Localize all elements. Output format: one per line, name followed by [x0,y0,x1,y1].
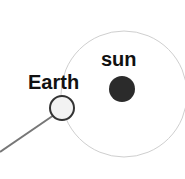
sun [109,76,135,102]
pointer-line [0,115,54,152]
sun-earth-diagram: sun Earth [0,0,185,179]
earth-label: Earth [28,71,79,93]
earth [50,96,74,120]
sun-label: sun [101,48,137,70]
